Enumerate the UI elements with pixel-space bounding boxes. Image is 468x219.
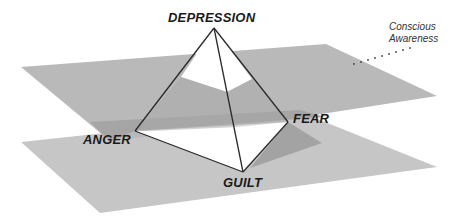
annotation-line-2: Awareness: [389, 33, 438, 45]
vertex-label-anger: ANGER: [83, 132, 131, 147]
annotation-line-1: Conscious: [389, 21, 438, 33]
vertex-label-guilt: GUILT: [223, 175, 262, 190]
vertex-label-depression: DEPRESSION: [168, 10, 255, 25]
annotation-leader-dots: [353, 47, 411, 65]
annotation-conscious-awareness: Conscious Awareness: [389, 21, 438, 45]
vertex-label-fear: FEAR: [293, 111, 329, 126]
